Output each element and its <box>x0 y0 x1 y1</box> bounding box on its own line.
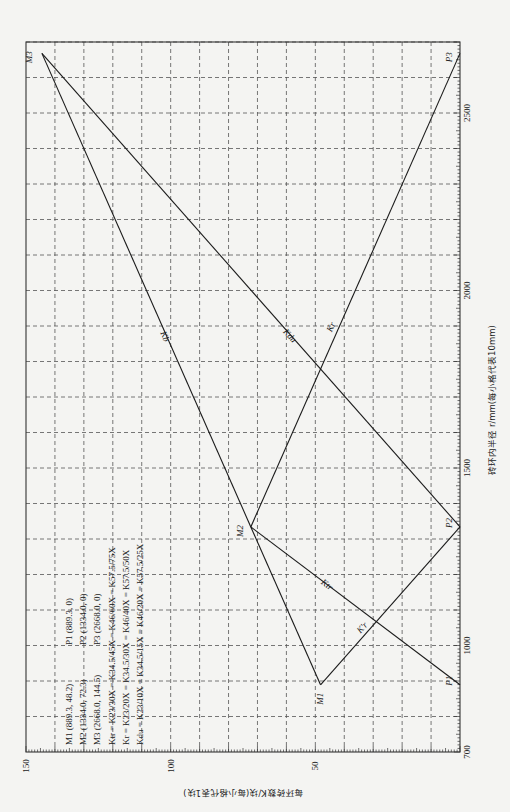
x-axis-title: 砖环内半径 r/mm(每小格代表10mm) <box>487 325 497 475</box>
legend-eq-kdu: Kdu = K23/10X = K34.5/15X = K46/20X = K5… <box>135 543 145 745</box>
legend-p3: P3 (2668.0, 0) <box>92 593 102 645</box>
point-label-m2: M2 <box>235 524 245 537</box>
point-label-m3: M3 <box>24 51 34 64</box>
x-tick-label: 1000 <box>462 636 472 655</box>
legend: M1 (889.3, 48.2) P1 (889.3, 0) M2 (1334.… <box>64 543 145 745</box>
point-label-m1: M1 <box>315 693 325 706</box>
tick-labels: 700100015002000250050100150 <box>21 104 472 773</box>
x-tick-label: 2000 <box>462 281 472 300</box>
x-tick-label: 2500 <box>462 104 472 123</box>
y-tick-label: 100 <box>166 759 176 773</box>
y-axis-title: 每环砖数K/块(每小格代表1块) <box>183 788 302 798</box>
series-label: K'r <box>354 620 370 636</box>
series-segment <box>251 527 321 685</box>
series-label: Kr <box>324 320 338 334</box>
point-label-p2: P2 <box>444 517 454 528</box>
legend-p2: P2 (1334.0, 0) <box>78 593 88 645</box>
series-Ktr <box>251 527 460 685</box>
point-label-p3: P3 <box>444 52 454 63</box>
series-K'r <box>321 527 460 685</box>
x-tick-label: 700 <box>462 745 472 759</box>
series-label: Kb <box>158 329 172 344</box>
y-tick-label: 150 <box>21 759 31 773</box>
series-Kb <box>42 53 251 527</box>
legend-eq-kr: Kr = K23/20X = K34.5/30X = K46/40X = K57… <box>121 549 131 745</box>
legend-p1: P1 (889.3, 0) <box>64 598 74 645</box>
y-tick-label: 50 <box>310 761 320 771</box>
legend-m3: M3 (2668.0, 144.5) <box>92 675 102 745</box>
legend-eq-ktr: Ktr = K23/30X = K34.5/45X = K46/60X = K5… <box>107 547 117 745</box>
rotated-line-chart: KtrK'rKbKduKrM1M2M3P1P2P3 70010001500200… <box>0 0 510 812</box>
point-label-p1: P1 <box>444 676 454 687</box>
series-lines <box>42 53 460 684</box>
series-label: Ktr <box>319 576 336 592</box>
legend-m2: M2 (1334.0, 72.3) <box>78 679 88 745</box>
legend-m1: M1 (889.3, 48.2) <box>64 684 74 745</box>
x-tick-label: 1500 <box>462 459 472 478</box>
